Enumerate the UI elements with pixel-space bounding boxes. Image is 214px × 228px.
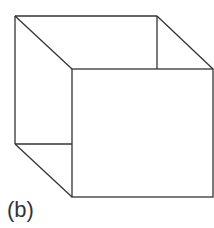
figure-label: (b)	[7, 197, 34, 223]
top-right-connector	[157, 16, 213, 69]
cube-diagram	[0, 0, 214, 228]
bottom-left-connector	[15, 144, 72, 197]
front-face	[72, 69, 213, 197]
top-left-connector	[15, 16, 72, 69]
